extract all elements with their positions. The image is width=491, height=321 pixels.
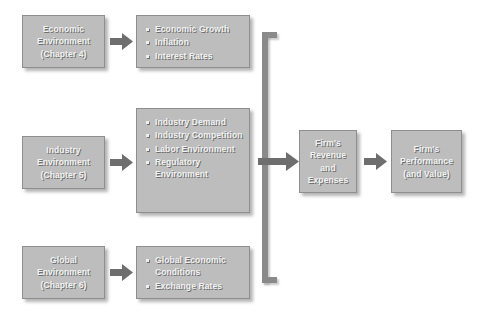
box-industry-environment: Industry Environment (Chapter 5) [22, 136, 105, 189]
bullet-icon [146, 285, 149, 288]
arrow-junction-to-revenue [258, 152, 299, 171]
bullet-icon [146, 134, 149, 137]
list-item: Economic Growth [146, 23, 243, 35]
list-item: Inflation [146, 36, 243, 48]
list-item: Interest Rates [146, 50, 243, 62]
box-global-environment: Global Environment (Chapter 6) [22, 246, 105, 299]
bullet-icon [146, 161, 149, 164]
bullet-icon [146, 148, 149, 151]
bullet-icon [146, 28, 149, 31]
arrow-economic-to-factors [110, 33, 133, 50]
box-economic-environment-label: Economic Environment (Chapter 4) [37, 23, 90, 61]
flow-diagram: Economic Environment (Chapter 4) Economi… [0, 0, 491, 321]
arrow-revenue-to-performance [364, 153, 387, 170]
box-firm-performance-value: Firm's Performance (and Value) [391, 130, 462, 193]
box-firm-revenue-expenses-label: Firm's Revenue and Expenses [308, 137, 349, 187]
bullet-icon [146, 259, 149, 262]
box-global-environment-label: Global Environment (Chapter 6) [37, 254, 90, 292]
box-economic-factors: Economic Growth Inflation Interest Rates [136, 15, 250, 68]
bullet-icon [146, 121, 149, 124]
list-item: Global Economic Conditions [146, 254, 243, 279]
connector-bottom-stub [262, 277, 277, 283]
box-economic-environment: Economic Environment (Chapter 4) [22, 15, 105, 68]
bullet-icon [146, 41, 149, 44]
box-industry-factors: Industry Demand Industry Competition Lab… [136, 108, 250, 213]
list-item: Industry Competition [146, 129, 243, 141]
list-item: Industry Demand [146, 116, 243, 128]
box-global-factors: Global Economic Conditions Exchange Rate… [136, 246, 250, 299]
box-firm-revenue-expenses: Firm's Revenue and Expenses [299, 130, 357, 193]
list-item: Labor Environment [146, 143, 243, 155]
bullet-icon [146, 55, 149, 58]
box-industry-environment-label: Industry Environment (Chapter 5) [37, 144, 90, 182]
arrow-global-to-factors [110, 264, 133, 281]
list-item: Exchange Rates [146, 280, 243, 292]
box-firm-performance-value-label: Firm's Performance (and Value) [400, 143, 453, 181]
list-item: Regulatory Environment [146, 156, 243, 181]
arrow-industry-to-factors [110, 154, 133, 171]
